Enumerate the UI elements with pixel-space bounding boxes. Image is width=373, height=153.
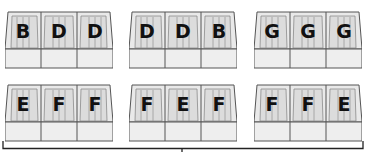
grouping-bracket [0, 0, 373, 153]
